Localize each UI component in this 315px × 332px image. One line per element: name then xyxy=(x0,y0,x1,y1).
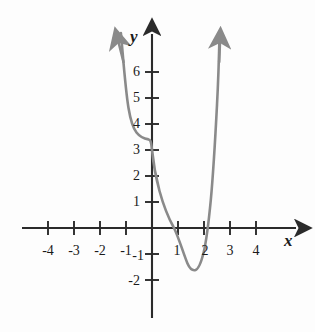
y-tick-label-2: 2 xyxy=(122,169,140,183)
x-tick-label-neg3: -3 xyxy=(68,244,80,258)
y-tick-label-5: 5 xyxy=(122,91,140,105)
y-tick-label-4: 4 xyxy=(122,117,140,131)
y-axis-label: y xyxy=(130,28,138,45)
coordinate-plane xyxy=(0,0,315,332)
y-tick-label-6: 6 xyxy=(122,65,140,79)
x-tick-label-2: 2 xyxy=(202,244,209,258)
x-tick-label-4: 4 xyxy=(253,244,260,258)
x-axis xyxy=(22,221,296,235)
y-tick-label-1: 1 xyxy=(122,195,140,209)
y-tick-label-neg1: -1 xyxy=(126,249,144,263)
y-tick-label-3: 3 xyxy=(122,143,140,157)
x-tick-label-1: 1 xyxy=(174,244,181,258)
y-tick-label-neg2: -2 xyxy=(122,274,140,288)
x-tick-label-neg2: -2 xyxy=(94,244,106,258)
x-axis-label: x xyxy=(284,232,293,249)
x-tick-label-3: 3 xyxy=(227,244,234,258)
graph-figure: y x -4 -3 -2 -1 1 2 3 4 6 5 4 3 2 1 -1 -… xyxy=(0,0,315,332)
x-tick-label-neg4: -4 xyxy=(42,244,54,258)
